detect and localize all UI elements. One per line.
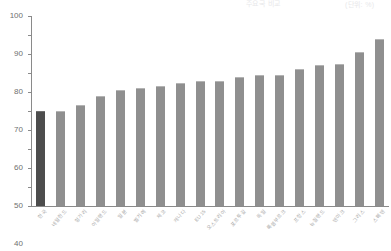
bar [136,88,145,206]
bar [335,64,344,207]
bar [36,111,45,206]
bar [235,77,244,206]
bar [215,81,224,206]
bar [196,81,205,206]
bar [76,105,85,206]
x-axis-label: 그리스 [352,209,366,223]
x-axis-label: 벨기에 [133,209,147,223]
x-axis-label: 네덜란드 [50,209,67,227]
y-tick-mark: 0 [28,206,31,207]
x-axis-label: 아일랜드 [90,209,107,227]
x-axis-label: 포르투갈 [229,209,246,227]
bar [96,96,105,206]
bar-series [31,16,389,206]
bar [355,52,364,206]
bar [295,69,304,206]
bar [315,65,324,206]
x-axis [31,206,389,207]
bar [275,75,284,206]
y-tick-label: 90 [14,50,23,58]
y-tick-label: 100 [10,12,23,20]
x-axis-label: EU 15 [194,209,207,223]
x-axis-label: 캐나다 [173,209,187,223]
chart-unit-label: (단위: %) [345,0,375,9]
x-axis-label: 스웨덴 [372,209,386,223]
x-axis-label: 헝가리 [74,209,88,223]
y-tick-label: 50 [14,202,23,210]
y-tick-label: 70 [14,126,23,134]
x-axis-label: 체코 [157,209,167,220]
bar [375,39,384,206]
x-axis-label: 일본 [117,209,127,220]
x-axis-labels: 한국네덜란드헝가리아일랜드일본벨기에체코캐나다EU 15오스트리아포르투갈독일룩… [31,209,389,251]
x-axis-label: 프랑스 [292,209,306,223]
bar [56,111,65,206]
bar [176,83,185,207]
plot-area: 0102030405060708090100 [31,16,389,206]
x-axis-label: 뉴질랜드 [309,209,326,227]
y-tick-label: 80 [14,88,23,96]
x-axis-label: 한국 [37,209,47,220]
chart-title: 주요국 비교 [246,0,280,8]
x-axis-label: 룩셈부르크 [266,209,286,231]
x-axis-label: 독일 [256,209,266,220]
bar [255,75,264,206]
y-tick-label: 60 [14,164,23,172]
bar-chart: 주요국 비교 (단위: %) 0102030405060708090100 한국… [0,0,391,251]
bar [156,86,165,206]
y-tick-label: 40 [14,240,23,248]
bar [116,90,125,206]
x-axis-label: 오스트리아 [206,209,226,231]
x-axis-label: 덴마크 [332,209,346,223]
